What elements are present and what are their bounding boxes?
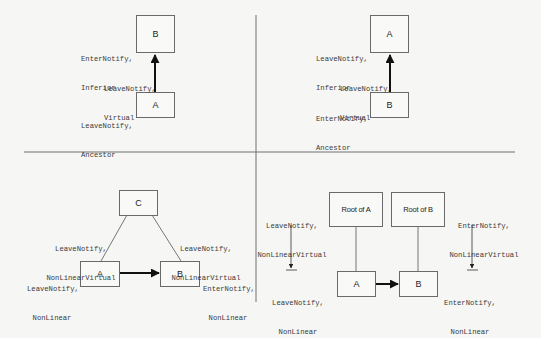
q4-root-of-a: Root of A <box>329 192 383 227</box>
q4-window-b: B <box>399 271 438 297</box>
q2-label-lower: EnterNotify, Ancestor <box>316 96 368 163</box>
q2-window-a: A <box>370 15 409 53</box>
q4-label-left-top-detail: NonLinearVirtual <box>254 251 330 261</box>
q3-label-right-edge-event: LeaveNotify, <box>168 245 244 255</box>
q4-label-right-bottom-event: EnterNotify, <box>442 299 498 309</box>
q4-window-a: A <box>337 271 376 297</box>
q3-label-left-box-event: LeaveNotify, <box>27 285 77 295</box>
q4-window-a-label: A <box>353 279 359 289</box>
q4-root-of-b: Root of B <box>391 192 445 227</box>
q4-label-right-bottom: EnterNotify, NonLinear <box>442 280 498 338</box>
q4-label-left-top: LeaveNotify, NonLinearVirtual <box>254 203 330 270</box>
q2-label-arrow-event: LeaveNotify, <box>340 85 392 95</box>
q1-label-lower-detail: Ancestor <box>81 151 133 161</box>
q2-label-lower-event: EnterNotify, <box>316 115 368 125</box>
q1-label-lower: LeaveNotify, Ancestor <box>81 103 133 170</box>
q1-window-b-label: B <box>152 29 158 39</box>
q3-label-right-box-detail: NonLinear <box>203 314 253 324</box>
q4-label-right-top-detail: NonLinearVirtual <box>446 251 522 261</box>
q4-label-right-top-event: EnterNotify, <box>446 222 522 232</box>
q4-label-right-top: EnterNotify, NonLinearVirtual <box>446 203 522 270</box>
q1-label-upper-event: EnterNotify, <box>81 55 133 65</box>
q3-window-c: C <box>119 190 158 216</box>
q1-label-lower-event: LeaveNotify, <box>81 122 133 132</box>
q3-label-right-box-event: EnterNotify, <box>203 285 253 295</box>
q3-label-left-box-detail: NonLinear <box>27 314 77 324</box>
q3-label-left-edge-event: LeaveNotify, <box>43 245 119 255</box>
q1-window-b: B <box>136 15 175 53</box>
q4-root-of-b-label: Root of B <box>403 205 432 214</box>
q4-label-left-top-event: LeaveNotify, <box>254 222 330 232</box>
q3-window-c-label: C <box>135 198 142 208</box>
q4-label-right-bottom-detail: NonLinear <box>442 328 498 338</box>
q4-label-left-bottom: LeaveNotify, NonLinear <box>270 280 326 338</box>
q1-label-arrow-event: LeaveNotify, <box>104 85 156 95</box>
q3-label-left-box: LeaveNotify, NonLinear <box>27 266 77 333</box>
q2-window-a-label: A <box>386 29 392 39</box>
q4-root-of-a-label: Root of A <box>341 205 370 214</box>
q2-label-upper-event: LeaveNotify, <box>316 55 368 65</box>
q2-label-lower-detail: Ancestor <box>316 144 368 154</box>
q4-label-left-bottom-detail: NonLinear <box>270 328 326 338</box>
q4-window-b-label: B <box>415 279 421 289</box>
q4-label-left-bottom-event: LeaveNotify, <box>270 299 326 309</box>
q3-label-right-box: EnterNotify, NonLinear <box>203 266 253 333</box>
